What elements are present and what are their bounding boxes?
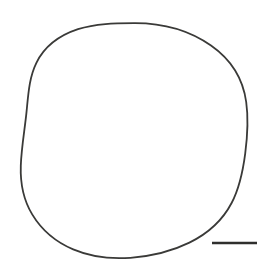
figure-canvas bbox=[0, 0, 268, 266]
figure-root bbox=[0, 0, 268, 266]
